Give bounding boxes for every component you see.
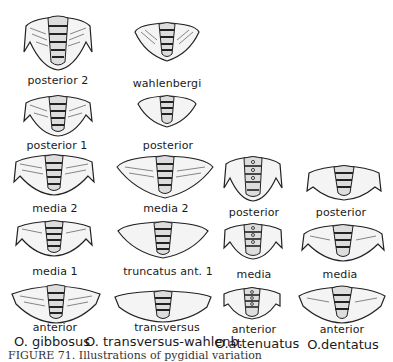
label-transversus-posterior: posterior xyxy=(143,140,193,152)
pygidium-attenuatus-anterior xyxy=(222,286,282,320)
label-gibbosus-posterior-2: posterior 2 xyxy=(28,75,89,87)
trilobite-pygidium-icon xyxy=(300,222,386,262)
trilobite-pygidium-icon xyxy=(136,94,198,128)
label-attenuatus-media: media xyxy=(237,269,272,281)
pygidium-transversus-wahlenbergi xyxy=(133,20,201,62)
label-dentatus-posterior: posterior xyxy=(316,207,366,219)
trilobite-pygidium-icon xyxy=(113,289,213,323)
label-gibbosus-anterior: anterior xyxy=(33,322,77,334)
pygidium-transversus-posterior xyxy=(136,94,198,128)
pygidium-transversus-transversus xyxy=(113,289,213,323)
label-dentatus-anterior: anterior xyxy=(320,324,364,336)
label-transversus-wahlenbergi: wahlenbergi xyxy=(133,78,202,90)
label-gibbosus-media-2: media 2 xyxy=(32,203,77,215)
trilobite-pygidium-icon xyxy=(12,152,96,196)
trilobite-pygidium-icon xyxy=(22,12,94,72)
label-dentatus-media: media xyxy=(323,269,358,281)
trilobite-pygidium-icon xyxy=(115,153,215,199)
label-attenuatus-anterior: anterior xyxy=(232,324,276,336)
figure-caption: FIGURE 71. Illustrations of pygidial var… xyxy=(8,350,262,362)
pygidium-dentatus-anterior xyxy=(297,284,387,324)
trilobite-pygidium-icon xyxy=(14,219,94,257)
label-transversus-transversus: transversus xyxy=(134,322,200,334)
pygidium-dentatus-media xyxy=(300,222,386,262)
species-dentatus: O.dentatus xyxy=(307,338,379,352)
trilobite-pygidium-icon xyxy=(116,219,210,259)
label-gibbosus-media-1: media 1 xyxy=(32,266,77,278)
label-gibbosus-posterior-1: posterior 1 xyxy=(27,140,88,152)
trilobite-pygidium-icon xyxy=(133,20,201,62)
trilobite-pygidium-icon xyxy=(222,154,284,202)
trilobite-pygidium-icon xyxy=(222,286,282,320)
pygidium-attenuatus-posterior xyxy=(222,154,284,202)
label-attenuatus-posterior: posterior xyxy=(229,207,279,219)
pygidium-gibbosus-media-1 xyxy=(14,219,94,257)
pygidium-transversus-truncatus xyxy=(116,219,210,259)
trilobite-pygidium-icon xyxy=(10,282,102,324)
trilobite-pygidium-icon xyxy=(297,284,387,324)
pygidium-attenuatus-media xyxy=(222,222,284,260)
trilobite-pygidium-icon xyxy=(22,93,94,137)
pygidium-gibbosus-anterior xyxy=(10,282,102,324)
trilobite-pygidium-icon xyxy=(305,163,383,201)
species-gibbosus: O. gibbosus xyxy=(14,335,90,349)
pygidium-dentatus-posterior xyxy=(305,163,383,201)
pygidium-gibbosus-media-2 xyxy=(12,152,96,196)
label-transversus-truncatus: truncatus ant. 1 xyxy=(123,266,213,278)
pygidium-transversus-media-2 xyxy=(115,153,215,199)
pygidium-gibbosus-posterior-1 xyxy=(22,93,94,137)
trilobite-pygidium-icon xyxy=(222,222,284,260)
pygidium-gibbosus-posterior-2 xyxy=(22,12,94,72)
label-transversus-media-2: media 2 xyxy=(143,203,188,215)
